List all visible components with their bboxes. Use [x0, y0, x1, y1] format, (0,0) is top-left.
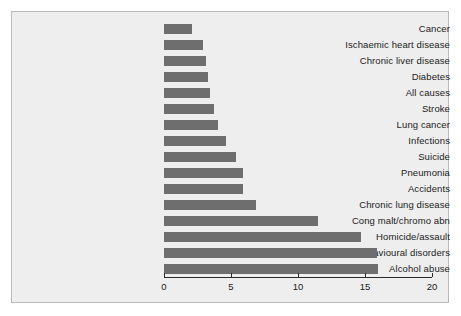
x-axis-line: [164, 277, 432, 278]
x-axis-tick-label: 0: [161, 281, 166, 293]
x-axis-tick: [298, 273, 299, 277]
chart-panel: CancerIschaemic heart diseaseChronic liv…: [11, 11, 449, 303]
x-axis-tick-label: 10: [293, 281, 304, 293]
x-axis-tick: [365, 273, 366, 277]
x-axis-tick: [231, 273, 232, 277]
figure: CancerIschaemic heart diseaseChronic liv…: [0, 0, 461, 316]
x-axis-group: 05101520: [12, 12, 450, 304]
x-axis-tick-label: 5: [228, 281, 233, 293]
x-axis-tick: [164, 273, 165, 277]
x-axis-tick-label: 20: [427, 281, 438, 293]
x-axis-tick: [432, 273, 433, 277]
x-axis-tick-label: 15: [360, 281, 371, 293]
